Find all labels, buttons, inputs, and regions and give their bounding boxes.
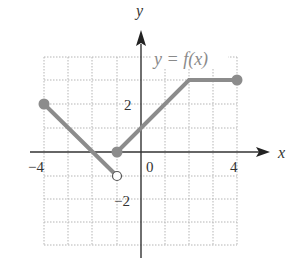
- x-axis-label: x: [277, 144, 285, 161]
- tick-label-neg4: −4: [28, 159, 44, 175]
- y-axis-label: y: [134, 2, 144, 20]
- function-graph: y x y = f(x) −4 0 4 2 −2: [0, 0, 301, 260]
- closed-endpoint-middle: [112, 147, 123, 158]
- axes: [30, 44, 262, 258]
- function-label: y = f(x): [152, 49, 208, 70]
- y-axis-arrow-icon: [136, 30, 146, 46]
- tick-label-4: 4: [230, 159, 238, 175]
- tick-label-2: 2: [124, 97, 132, 113]
- closed-endpoint-right: [232, 75, 243, 86]
- closed-endpoint-left: [39, 99, 50, 110]
- open-endpoint: [113, 172, 122, 181]
- tick-label-neg2: −2: [114, 193, 130, 209]
- tick-label-0: 0: [146, 159, 154, 175]
